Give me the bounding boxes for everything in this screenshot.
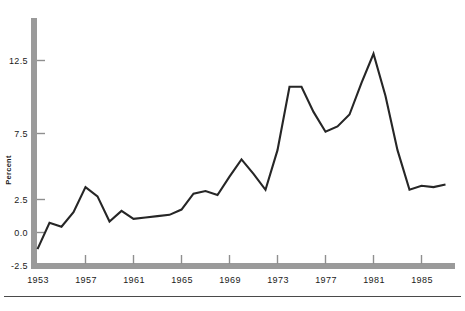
line-chart-svg: 12.5 7.5 2.5 0.0 -2.5 Percent 1953 1957 … <box>0 0 465 311</box>
y-axis-title: Percent <box>4 155 13 185</box>
x-tick-label-1965: 1965 <box>171 275 193 285</box>
y-tick-label--2.5: -2.5 <box>11 261 28 271</box>
x-tick-label-1969: 1969 <box>219 275 241 285</box>
y-axis-ticks <box>37 61 45 233</box>
x-axis-spine <box>31 263 455 269</box>
chart-figure: 12.5 7.5 2.5 0.0 -2.5 Percent 1953 1957 … <box>0 0 465 311</box>
x-tick-label-1957: 1957 <box>75 275 97 285</box>
x-tick-label-1973: 1973 <box>267 275 289 285</box>
x-tick-label-1953: 1953 <box>27 275 49 285</box>
x-tick-label-1981: 1981 <box>363 275 385 285</box>
data-line-percent <box>38 54 446 249</box>
x-tick-label-1977: 1977 <box>315 275 337 285</box>
y-tick-label-0.0: 0.0 <box>14 228 28 238</box>
y-tick-label-2.5: 2.5 <box>14 195 28 205</box>
x-tick-label-1985: 1985 <box>411 275 433 285</box>
x-axis-ticks <box>86 255 422 264</box>
x-axis-tick-labels: 1953 1957 1961 1965 1969 1973 1977 1981 … <box>27 275 433 285</box>
x-tick-label-1961: 1961 <box>123 275 145 285</box>
y-axis-spine <box>31 18 37 265</box>
y-tick-label-12.5: 12.5 <box>9 56 28 66</box>
y-tick-label-7.5: 7.5 <box>14 129 28 139</box>
